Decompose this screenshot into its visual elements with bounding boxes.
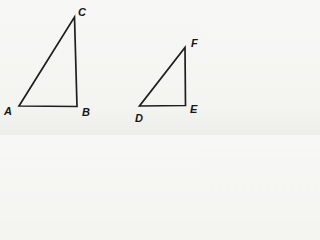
label-c: C: [78, 6, 87, 18]
label-f: F: [191, 37, 198, 49]
label-d: D: [135, 112, 143, 124]
triangle-def: DEF: [135, 37, 198, 124]
label-b: B: [82, 106, 90, 118]
triangles-diagram: ABCDEF: [0, 0, 204, 135]
figure: ABCDEF: [0, 0, 204, 135]
triangle-abc-outline: [19, 17, 77, 107]
label-e: E: [190, 103, 198, 115]
label-a: A: [3, 105, 12, 117]
triangle-def-outline: [140, 48, 186, 107]
triangle-abc: ABC: [3, 6, 90, 118]
